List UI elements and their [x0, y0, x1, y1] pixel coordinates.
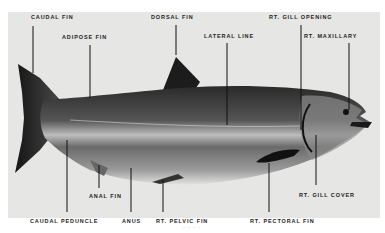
- label-lateral-line: LATERAL LINE: [204, 33, 254, 39]
- label-rt-pectoral-fin: RT. PECTORAL FIN: [250, 218, 315, 224]
- label-anus: ANUS: [122, 218, 141, 224]
- label-caudal-peduncle: CAUDAL PEDUNCLE: [30, 218, 98, 224]
- label-adipose-fin: ADIPOSE FIN: [62, 34, 107, 40]
- label-anal-fin: ANAL FIN: [89, 193, 122, 199]
- page-mark: - - - -: [183, 224, 201, 230]
- label-rt-gill-cover: RT. GILL COVER: [299, 192, 355, 198]
- label-dorsal-fin: DORSAL FIN: [151, 14, 194, 20]
- dorsal-fin-shape: [163, 57, 200, 90]
- eye: [343, 109, 349, 115]
- label-rt-maxillary: RT. MAXILLARY: [304, 33, 357, 39]
- label-rt-gill-opening: RT. GILL OPENING: [269, 14, 333, 20]
- label-caudal-fin: CAUDAL FIN: [31, 14, 74, 20]
